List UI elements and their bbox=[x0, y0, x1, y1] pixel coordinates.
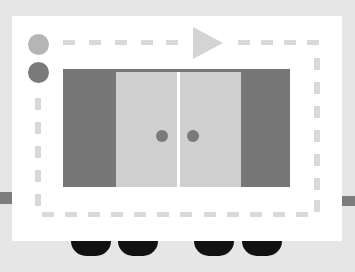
left-door[interactable] bbox=[116, 72, 177, 187]
indicator-dark bbox=[28, 62, 49, 83]
wheel-3 bbox=[194, 241, 234, 256]
right-door[interactable] bbox=[180, 72, 241, 187]
left-door-knob bbox=[156, 130, 168, 142]
play-icon bbox=[193, 27, 223, 59]
track-right bbox=[342, 196, 355, 206]
right-door-knob bbox=[187, 130, 199, 142]
wheel-4 bbox=[242, 241, 282, 256]
wheel-2 bbox=[118, 241, 158, 256]
track-left bbox=[0, 192, 12, 204]
indicator-light bbox=[28, 34, 49, 55]
wheel-1 bbox=[71, 241, 111, 256]
